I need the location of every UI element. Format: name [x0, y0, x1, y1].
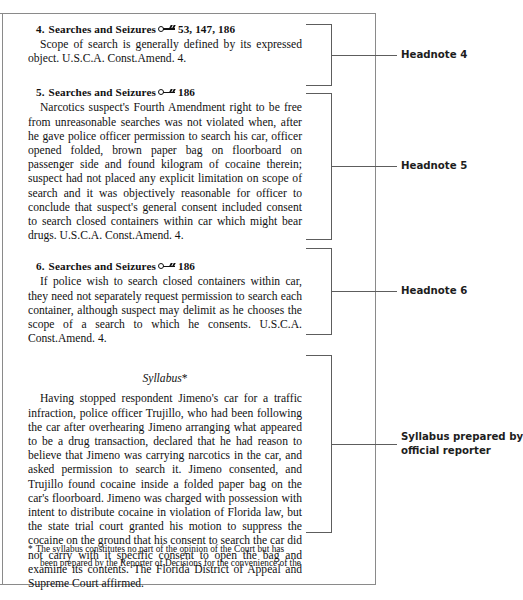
headnote-6-topic: Searches and Seizures	[49, 260, 156, 272]
headnote-4: 4.Searches and Seizures53, 147, 186 Scop…	[28, 22, 302, 66]
headnote-4-number: 4.	[36, 23, 45, 35]
headnote-6-number: 6.	[36, 260, 45, 272]
leader-syllabus	[332, 444, 397, 445]
page-footnote: *The syllabus constitutes no part of the…	[28, 543, 310, 570]
leader-headnote-4	[332, 55, 397, 56]
headnote-4-key-numbers: 53, 147, 186	[178, 23, 235, 35]
footnote-line-2: been prepared by the Reporter of Decisio…	[28, 557, 310, 571]
callout-syllabus-line-1: Syllabus prepared by	[401, 430, 523, 444]
bracket-headnote-6	[306, 248, 332, 335]
west-key-number-icon	[158, 25, 175, 34]
headnote-6: 6.Searches and Seizures186 If police wis…	[28, 259, 302, 346]
footnote-mark: *	[28, 544, 33, 554]
bracket-headnote-5	[306, 93, 332, 240]
headnote-6-body: If police wish to search closed containe…	[28, 275, 302, 346]
footnote-line-1: *The syllabus constitutes no part of the…	[28, 543, 310, 557]
text-column: 4.Searches and Seizures53, 147, 186 Scop…	[28, 22, 302, 591]
headnote-5-key-numbers: 186	[178, 86, 195, 98]
headnote-5: 5.Searches and Seizures186 Narcotics sus…	[28, 85, 302, 243]
callout-headnote-5: Headnote 5	[401, 159, 467, 173]
headnote-4-body: Scope of search is generally defined by …	[28, 38, 302, 66]
bracket-syllabus	[306, 355, 332, 533]
callout-syllabus-line-2: official reporter	[401, 444, 523, 458]
headnote-4-topic: Searches and Seizures	[49, 23, 156, 35]
west-key-number-icon	[158, 262, 175, 271]
headnote-5-body: Narcotics suspect's Fourth Amendment rig…	[28, 101, 302, 243]
callout-headnote-4: Headnote 4	[401, 48, 467, 62]
headnote-6-heading: 6.Searches and Seizures186	[28, 259, 302, 274]
page-top-rule	[0, 13, 376, 14]
bracket-headnote-4	[306, 24, 332, 86]
headnote-4-heading: 4.Searches and Seizures53, 147, 186	[28, 22, 302, 37]
headnote-5-topic: Searches and Seizures	[49, 86, 156, 98]
headnote-5-number: 5.	[36, 86, 45, 98]
syllabus-heading-text: Syllabus	[142, 372, 181, 385]
callout-syllabus: Syllabus prepared by official reporter	[401, 430, 523, 457]
west-key-number-icon	[158, 88, 175, 97]
syllabus-heading: Syllabus*	[28, 372, 302, 385]
callout-headnote-6: Headnote 6	[401, 284, 467, 298]
headnote-5-heading: 5.Searches and Seizures186	[28, 85, 302, 100]
leader-headnote-5	[332, 166, 397, 167]
footnote-line-1-text: The syllabus constitutes no part of the …	[36, 544, 284, 554]
headnote-6-key-numbers: 186	[178, 260, 195, 272]
syllabus-footnote-mark: *	[182, 372, 188, 385]
leader-headnote-6	[332, 291, 397, 292]
